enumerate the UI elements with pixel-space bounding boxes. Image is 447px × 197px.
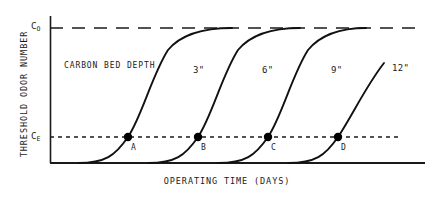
x-axis-title: OPERATING TIME (DAYS) [137, 176, 317, 186]
curve-label-3in: 3" [193, 65, 204, 75]
plot-area [0, 0, 447, 197]
point-label-c: C [271, 143, 276, 152]
breakthrough-point-d [334, 133, 342, 141]
point-label-d: D [341, 143, 346, 152]
y-tick-label-ce: CE [31, 131, 40, 141]
point-label-b: B [201, 143, 206, 152]
curve-12in [288, 63, 384, 163]
breakthrough-point-a [124, 133, 132, 141]
y-tick-label-co: CO [31, 21, 40, 31]
y-tick-ce-sub: E [36, 135, 40, 143]
curve-3in [78, 28, 232, 163]
carbon-bed-depth-annotation: CARBON BED DEPTH [64, 61, 155, 70]
curve-label-12in: 12" [392, 63, 409, 73]
y-tick-co-sub: O [36, 25, 40, 33]
curve-label-9in: 9" [331, 65, 342, 75]
breakthrough-point-c [264, 133, 272, 141]
curve-label-6in: 6" [262, 65, 273, 75]
breakthrough-curve-figure: THRESHOLD ODOR NUMBER OPERATING TIME (DA… [0, 0, 447, 197]
point-label-a: A [131, 143, 136, 152]
breakthrough-point-b [194, 133, 202, 141]
y-axis-title: THRESHOLD ODOR NUMBER [19, 19, 29, 169]
